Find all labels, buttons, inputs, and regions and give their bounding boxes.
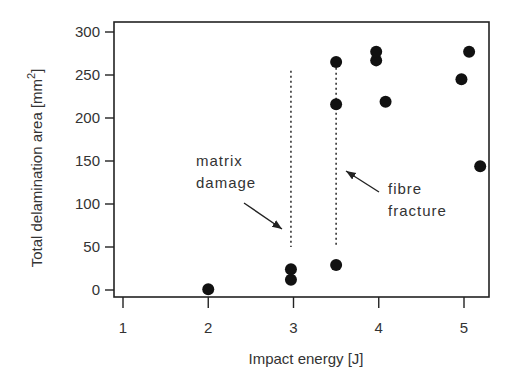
x-tick-label: 4: [375, 319, 383, 336]
data-point: [330, 56, 342, 68]
y-tick-label: 300: [75, 23, 100, 40]
data-point: [370, 46, 382, 58]
y-tick-label: 150: [75, 152, 100, 169]
y-tick-label: 50: [83, 238, 100, 255]
annotations: matrixdamagefibrefracture: [196, 58, 447, 247]
plot-frame: [114, 22, 489, 297]
data-point: [330, 98, 342, 110]
y-axis-label-close: ]: [28, 69, 45, 73]
y-tick-label: 250: [75, 66, 100, 83]
data-point: [330, 259, 342, 271]
y-axis-label: Total delamination area [mm2]: [25, 69, 45, 268]
matrix-damage-arrow: [244, 203, 282, 229]
x-tick-label: 2: [204, 319, 212, 336]
x-axis-label: Impact energy [J]: [248, 350, 363, 367]
data-point: [463, 46, 475, 58]
data-point: [380, 96, 392, 108]
x-tick-label: 1: [119, 319, 127, 336]
fibre-fracture-arrow: [346, 171, 379, 192]
y-axis-ticks: 050100150200250300: [75, 23, 114, 298]
x-tick-label: 5: [460, 319, 468, 336]
y-tick-label: 0: [92, 281, 100, 298]
data-points: [202, 46, 486, 295]
plot-border: [114, 22, 489, 297]
data-point: [202, 283, 214, 295]
y-tick-label: 200: [75, 109, 100, 126]
x-tick-label: 3: [289, 319, 297, 336]
data-point: [455, 73, 467, 85]
matrix-damage-label: matrixdamage: [196, 152, 256, 191]
data-point: [474, 160, 486, 172]
y-axis-label-base: Total delamination area [mm: [28, 79, 45, 267]
data-point: [285, 263, 297, 275]
y-tick-label: 100: [75, 195, 100, 212]
x-axis-ticks: 12345: [119, 297, 468, 336]
fibre-fracture-label: fibrefracture: [388, 180, 447, 219]
scatter-chart: 050100150200250300 12345 matrixdamagefib…: [0, 0, 517, 390]
data-point: [285, 274, 297, 286]
